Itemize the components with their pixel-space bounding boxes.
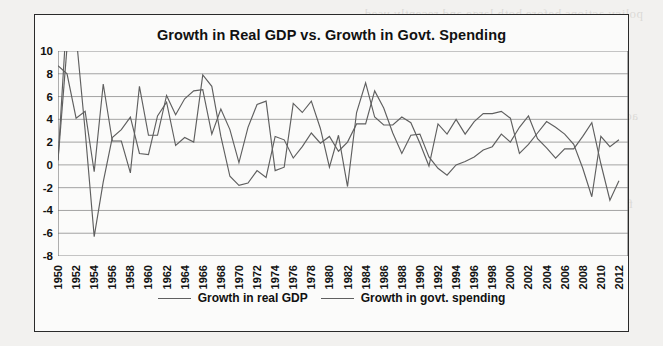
x-axis-tick-label: 1956 bbox=[106, 265, 118, 289]
x-axis-tick-label: 1982 bbox=[342, 265, 354, 289]
x-axis-tick-label: 1978 bbox=[305, 265, 317, 289]
x-axis-tick-label: 1966 bbox=[197, 265, 209, 289]
line-chart-svg bbox=[58, 51, 628, 256]
x-axis-tick-label: 2008 bbox=[577, 265, 589, 289]
x-axis-tick-label: 2010 bbox=[595, 265, 607, 289]
x-axis-tick-label: 1970 bbox=[233, 265, 245, 289]
x-axis-tick-label: 1994 bbox=[450, 265, 462, 289]
x-axis-tick-label: 2012 bbox=[613, 265, 625, 289]
x-axis-tick-label: 1958 bbox=[124, 265, 136, 289]
x-axis-tick-label: 1986 bbox=[378, 265, 390, 289]
x-axis-tick-label: 1968 bbox=[215, 265, 227, 289]
y-axis-tick-label: 0 bbox=[47, 159, 53, 171]
x-axis-tick-label: 1990 bbox=[414, 265, 426, 289]
y-axis-tick-label: 8 bbox=[47, 68, 53, 80]
x-axis-tick-label: 1964 bbox=[179, 265, 191, 289]
y-axis-tick-label: 6 bbox=[47, 91, 53, 103]
x-axis-tick-label: 1962 bbox=[161, 265, 173, 289]
y-axis-tick-label: 10 bbox=[40, 45, 53, 57]
y-axis-tick-label: -6 bbox=[43, 227, 53, 239]
plot-area: 1086420-2-4-6-81950195219541956195819601… bbox=[58, 51, 628, 256]
x-axis-tick-label: 1992 bbox=[432, 265, 444, 289]
legend-line-swatch-gdp bbox=[158, 298, 191, 299]
x-axis-tick-label: 1972 bbox=[251, 265, 263, 289]
x-axis-tick-label: 1976 bbox=[287, 265, 299, 289]
y-axis-tick-label: -4 bbox=[43, 204, 53, 216]
legend-line-swatch-spending bbox=[321, 298, 354, 299]
chart-figure: Growth in Real GDP vs. Growth in Govt. S… bbox=[34, 14, 629, 332]
x-axis-tick-label: 2004 bbox=[541, 265, 553, 289]
x-axis-tick-label: 1960 bbox=[142, 265, 154, 289]
x-axis-tick-label: 1988 bbox=[396, 265, 408, 289]
x-axis-tick-label: 1984 bbox=[360, 265, 372, 289]
chart-title: Growth in Real GDP vs. Growth in Govt. S… bbox=[35, 27, 628, 43]
series-line-spending bbox=[58, 51, 619, 237]
x-axis-tick-label: 1954 bbox=[88, 265, 100, 289]
x-axis-tick-label: 1980 bbox=[323, 265, 335, 289]
x-axis-tick-label: 1950 bbox=[52, 265, 64, 289]
y-axis-tick-label: 2 bbox=[47, 136, 53, 148]
legend-label-gdp: Growth in real GDP bbox=[198, 291, 308, 305]
legend-item-spending: Growth in govt. spending bbox=[321, 291, 506, 305]
x-axis-tick-label: 1952 bbox=[70, 265, 82, 289]
legend-item-gdp: Growth in real GDP bbox=[158, 291, 308, 305]
x-axis-tick-label: 1996 bbox=[468, 265, 480, 289]
x-axis-tick-label: 2000 bbox=[504, 265, 516, 289]
y-axis-tick-label: 4 bbox=[47, 113, 53, 125]
legend-label-spending: Growth in govt. spending bbox=[361, 291, 506, 305]
chart-legend: Growth in real GDP Growth in govt. spend… bbox=[35, 291, 628, 305]
x-axis-tick-label: 2002 bbox=[522, 265, 534, 289]
y-axis-tick-label: -8 bbox=[43, 250, 53, 262]
x-axis-tick-label: 1974 bbox=[269, 265, 281, 289]
x-axis-tick-label: 1998 bbox=[486, 265, 498, 289]
x-axis-tick-label: 2006 bbox=[559, 265, 571, 289]
y-axis-tick-label: -2 bbox=[43, 182, 53, 194]
